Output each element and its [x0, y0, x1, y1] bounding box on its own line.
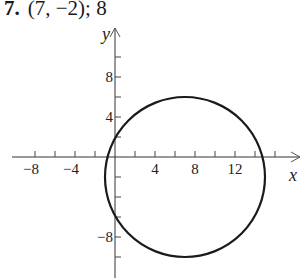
x-tick-label: −4	[63, 161, 79, 177]
x-tick-label: −8	[23, 161, 39, 177]
y-tick-label: 8	[106, 69, 114, 85]
x-tick-label: 8	[191, 161, 199, 177]
x-tick-label: 12	[228, 161, 243, 177]
y-tick-label: 4	[106, 109, 114, 125]
y-tick-label: −8	[97, 229, 113, 245]
circle-curve	[105, 97, 265, 257]
x-axis-label: x	[288, 165, 297, 185]
x-tick-label: 4	[151, 161, 159, 177]
circle-graph: −8−4481284−8xy	[0, 0, 303, 278]
y-axis-label: y	[100, 24, 110, 44]
